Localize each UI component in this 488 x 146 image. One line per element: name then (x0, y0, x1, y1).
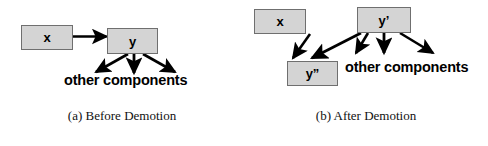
arrow-x-to-ypp (293, 34, 310, 58)
node-box-y-prime[interactable]: y’ (357, 7, 411, 33)
node-label-y: y (129, 35, 136, 48)
node-box-y[interactable]: y (107, 28, 158, 54)
node-label-x: x (43, 31, 50, 44)
arrow-y-to-components-left (96, 54, 128, 72)
arrow-yp-to-components-right (400, 33, 433, 53)
other-components-label: other components (64, 72, 187, 88)
arrow-y-to-components-right (143, 54, 175, 72)
node-label-y-prime: y’ (379, 14, 390, 27)
node-label-x: x (276, 15, 283, 28)
panel-a-caption: (a) Before Demotion (0, 108, 244, 124)
node-box-x[interactable]: x (21, 25, 73, 50)
node-label-y-double-prime: y” (306, 67, 320, 80)
figure-canvas: x y other components (a) Before Demotion (0, 0, 488, 146)
panel-after-demotion: x y’ y” other components (b) After Demot… (244, 0, 488, 146)
arrow-yp-to-ypp (312, 33, 361, 58)
node-box-x[interactable]: x (254, 9, 306, 34)
panel-b-caption: (b) After Demotion (244, 108, 488, 124)
panel-before-demotion: x y other components (a) Before Demotion (0, 0, 244, 146)
other-components-label: other components (345, 59, 468, 75)
node-box-y-double-prime[interactable]: y” (287, 61, 338, 86)
